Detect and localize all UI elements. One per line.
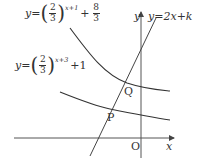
constant-term: +1	[70, 59, 86, 72]
curve-lower	[60, 92, 170, 120]
numerator: 8	[93, 3, 99, 12]
y-axis-label: y	[133, 10, 141, 23]
denominator: 3	[50, 14, 56, 23]
paren-left: (	[30, 55, 38, 75]
exponent: x+1	[65, 4, 78, 12]
paren-left: (	[40, 3, 48, 23]
x-axis-label: x	[166, 140, 173, 153]
plus-sign: +	[80, 7, 89, 20]
equation-upper-curve: y= ( 2 3 ) x+1 + 8 3	[25, 3, 101, 23]
paren-right: )	[47, 55, 55, 75]
denominator: 3	[93, 14, 99, 23]
origin-label: O	[131, 140, 140, 153]
denominator: 3	[40, 66, 46, 75]
point-q-label: Q	[124, 85, 133, 98]
eq-upper-prefix: y=	[25, 7, 40, 20]
coordinate-graph: y x O Q P y=2x+k	[0, 0, 201, 164]
line-y-2x-plus-k	[90, 18, 156, 156]
point-p-label: P	[107, 111, 115, 124]
fraction-const: 8 3	[93, 3, 100, 23]
paren-right: )	[57, 3, 65, 23]
eq-lower-prefix: y=	[15, 59, 30, 72]
numerator: 2	[50, 3, 56, 12]
fraction-base: 2 3	[39, 55, 46, 75]
numerator: 2	[40, 55, 46, 64]
equation-lower-curve: y= ( 2 3 ) x+3 +1	[15, 55, 87, 75]
fraction-base: 2 3	[49, 3, 56, 23]
line-label: y=2x+k	[147, 10, 193, 23]
exponent: x+3	[55, 56, 68, 64]
